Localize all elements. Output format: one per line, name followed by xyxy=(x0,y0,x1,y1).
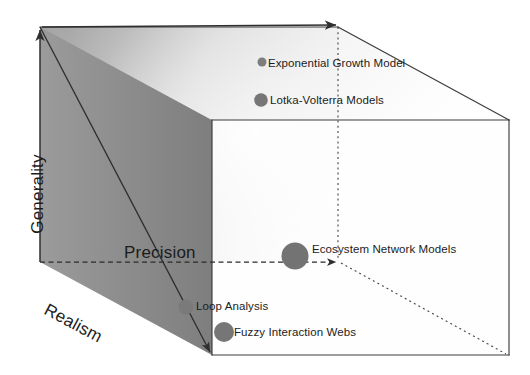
cube-shaded-faces xyxy=(40,27,509,355)
bubble-fuzzy-interaction-webs[interactable] xyxy=(214,322,234,342)
marker-label-loop-analysis: Loop Analysis xyxy=(196,300,268,312)
marker-label-fuzzy-interaction-webs: Fuzzy Interaction Webs xyxy=(234,326,356,338)
diagram-canvas: Generality Realism Precision Exponential… xyxy=(0,0,530,375)
bubble-loop-analysis[interactable] xyxy=(179,300,194,315)
marker-label-lotka-volterra-models: Lotka-Volterra Models xyxy=(270,94,384,106)
marker-label-exponential-growth-model: Exponential Growth Model xyxy=(268,57,405,69)
bubble-ecosystem-network-models[interactable] xyxy=(282,243,309,270)
bubble-lotka-volterra-models[interactable] xyxy=(254,93,268,107)
axis-label-precision: Precision xyxy=(124,243,196,263)
marker-label-ecosystem-network-models: Ecosystem Network Models xyxy=(312,243,456,255)
cube-front-face-tint xyxy=(212,120,509,355)
bubble-exponential-growth-model[interactable] xyxy=(258,58,267,67)
axis-label-generality: Generality xyxy=(28,134,48,254)
